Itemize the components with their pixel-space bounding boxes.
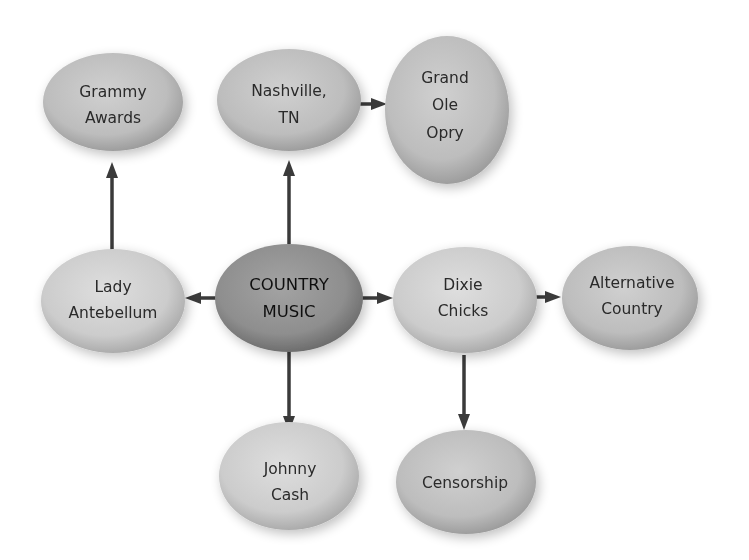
arrowhead-right-icon: [545, 291, 561, 303]
arrow-country-to-dixie: [362, 292, 393, 304]
arrow-country-to-lady: [185, 292, 216, 304]
node-label-line: Grammy: [79, 83, 146, 101]
arrowhead-right-icon: [371, 98, 387, 110]
arrow-dixie-to-censorship: [458, 355, 470, 430]
arrowhead-up-icon: [283, 160, 295, 176]
arrowhead-right-icon: [377, 292, 393, 304]
node-label-line: COUNTRY: [249, 275, 329, 294]
node-label-line: Dixie: [443, 276, 482, 294]
node-label-line: Opry: [426, 124, 464, 142]
arrowhead-down-icon: [458, 414, 470, 430]
node-label-line: Cash: [271, 486, 309, 504]
node-label-line: Antebellum: [69, 304, 158, 322]
node-lady-antebellum: Lady Antebellum: [41, 249, 185, 353]
arrow-nashville-to-opry: [358, 98, 387, 110]
node-label-line: Censorship: [422, 474, 508, 492]
node-grand-ole-opry: Grand Ole Opry: [385, 36, 509, 184]
node-label-line: MUSIC: [262, 302, 315, 321]
node-label-line: Awards: [85, 109, 141, 127]
node-label-line: TN: [277, 109, 299, 127]
node-alternative-country: Alternative Country: [562, 246, 698, 350]
arrowhead-left-icon: [185, 292, 201, 304]
arrowhead-up-icon: [106, 162, 118, 178]
arrow-country-to-nashville: [283, 160, 295, 244]
node-dixie-chicks: Dixie Chicks: [393, 247, 537, 353]
node-label-line: Nashville,: [251, 82, 327, 100]
arrow-dixie-to-alternative: [535, 291, 561, 303]
node-nashville-tn: Nashville, TN: [217, 49, 361, 151]
node-country-music: COUNTRY MUSIC: [215, 244, 363, 352]
arrow-lady-to-grammy: [106, 162, 118, 252]
node-grammy-awards: Grammy Awards: [43, 53, 183, 151]
concept-map: Grammy Awards Nashville, TN Grand Ole Op…: [0, 0, 749, 560]
node-label-line: Johnny: [263, 460, 317, 478]
node-johnny-cash: Johnny Cash: [219, 422, 359, 530]
arrow-country-to-johnny: [283, 351, 295, 432]
node-label-line: Alternative: [589, 274, 674, 292]
node-label-line: Ole: [432, 96, 458, 114]
node-label-line: Grand: [421, 69, 469, 87]
node-label-line: Lady: [94, 278, 131, 296]
node-censorship: Censorship: [396, 430, 536, 534]
node-label-line: Country: [601, 300, 663, 318]
node-label-line: Chicks: [438, 302, 489, 320]
